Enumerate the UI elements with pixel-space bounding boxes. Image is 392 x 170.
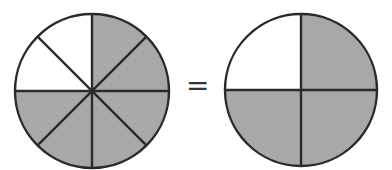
right-unshaded-quarter xyxy=(220,10,301,90)
right-circle-lines xyxy=(225,14,377,166)
equals-sign: = xyxy=(186,72,209,100)
left-circle-lines xyxy=(15,14,169,168)
